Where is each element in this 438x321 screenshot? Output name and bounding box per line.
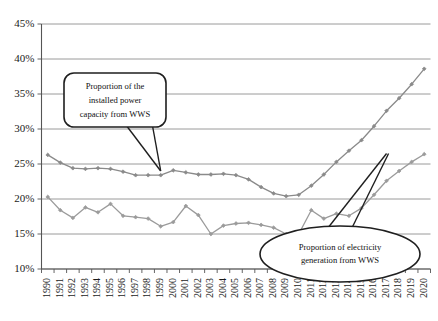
x-tick-label: 1990 (41, 278, 52, 298)
callout-text-line: Proportion of electricity (299, 242, 382, 252)
x-tick-label: 2008 (267, 278, 278, 298)
x-tick-label: 2007 (254, 278, 265, 298)
data-point-marker (259, 223, 263, 227)
x-tick-label: 2016 (367, 278, 378, 298)
x-tick-label: 1993 (79, 278, 90, 298)
x-tick-label: 1998 (141, 278, 152, 298)
data-point-marker (159, 173, 163, 177)
x-tick-label: 2000 (167, 278, 178, 298)
data-point-marker (171, 168, 175, 172)
x-tick-label: 2018 (392, 278, 403, 298)
data-point-marker (184, 171, 188, 175)
x-tick-label: 2020 (418, 278, 429, 298)
callout-text-line: Proportion of the (86, 81, 145, 91)
x-tick-label: 1996 (116, 278, 127, 298)
x-tick-label: 1999 (154, 278, 165, 298)
chart-screenshot: 10%15%20%25%30%35%40%45% 199019911992199… (0, 0, 438, 321)
data-point-marker (84, 167, 88, 171)
y-tick-label: 30% (14, 122, 34, 134)
x-tick-label: 2005 (229, 278, 240, 298)
x-tick-label: 2004 (217, 278, 228, 298)
x-tick-label: 1994 (91, 278, 102, 298)
x-tick-label: 2003 (204, 278, 215, 298)
y-axis-tick-labels: 10%15%20%25%30%35%40%45% (14, 17, 34, 274)
data-point-marker (247, 221, 251, 225)
y-tick-label: 20% (14, 192, 34, 204)
data-point-marker (222, 172, 226, 176)
data-point-marker (234, 222, 238, 226)
data-point-marker (209, 173, 213, 177)
callout-text-line: capacity from WWS (80, 109, 151, 119)
data-point-marker (121, 170, 125, 174)
y-tick-label: 15% (14, 227, 34, 239)
x-tick-label: 2006 (242, 278, 253, 298)
x-tick-label: 1991 (54, 278, 65, 298)
y-tick-label: 45% (14, 17, 34, 29)
callout-text-line: generation from WWS (301, 255, 379, 265)
annotation-capacity-callout: Proportion of theinstalled powercapacity… (64, 73, 166, 171)
data-point-marker (196, 173, 200, 177)
data-point-marker (96, 166, 100, 170)
data-point-marker (234, 173, 238, 177)
data-point-marker (71, 166, 75, 170)
x-tick-label: 2002 (192, 278, 203, 298)
x-tick-label: 2010 (292, 278, 303, 298)
y-tick-label: 10% (14, 262, 34, 274)
data-point-marker (146, 173, 150, 177)
line-chart: 10%15%20%25%30%35%40%45% 199019911992199… (0, 0, 438, 321)
callout-text-line: installed power (89, 95, 142, 105)
x-tick-label: 1997 (129, 278, 140, 298)
x-tick-label: 1992 (66, 278, 77, 298)
x-tick-label: 2017 (380, 278, 391, 298)
x-tick-label: 2009 (279, 278, 290, 298)
x-axis-tick-labels: 1990199119921993199419951996199719981999… (41, 278, 428, 298)
x-tick-label: 2001 (179, 278, 190, 298)
y-tick-label: 25% (14, 157, 34, 169)
x-tick-label: 1995 (104, 278, 115, 298)
y-tick-label: 35% (14, 87, 34, 99)
y-tick-label: 40% (14, 52, 34, 64)
data-point-marker (134, 173, 138, 177)
data-point-marker (284, 194, 288, 198)
data-point-marker (109, 167, 113, 171)
x-tick-label: 2019 (405, 278, 416, 298)
data-point-marker (134, 215, 138, 219)
